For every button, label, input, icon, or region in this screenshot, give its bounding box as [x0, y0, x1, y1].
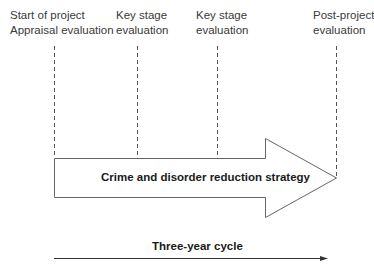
timeline-arrowhead-icon: [320, 256, 328, 261]
timeline-label: Three-year cycle: [152, 240, 243, 252]
diagram-graphics: [0, 0, 374, 266]
strategy-arrow-label: Crime and disorder reduction strategy: [101, 171, 310, 183]
